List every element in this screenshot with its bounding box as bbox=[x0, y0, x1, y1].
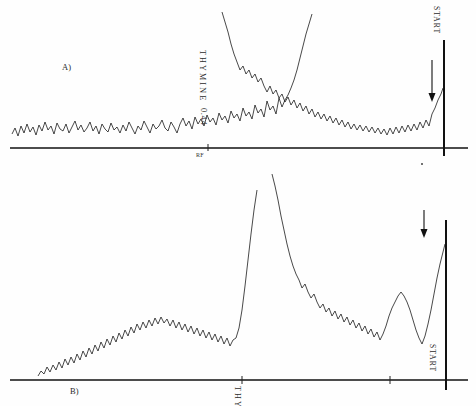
panel-a-start-label: START bbox=[432, 6, 441, 34]
panel-a-trace-right bbox=[222, 12, 443, 135]
panel-b-trace-left bbox=[38, 190, 257, 376]
panel-a-rf-value: 0.44 bbox=[199, 108, 209, 125]
panel-a-rf-tick-label: RF bbox=[196, 152, 204, 158]
panel-b-label: B) bbox=[70, 386, 79, 396]
figure-radiochromatogram: A) THYMINE 0.44 START RF B) THYMINE bbox=[0, 0, 476, 406]
panel-a-label: A) bbox=[62, 62, 71, 72]
panel-b-thymine-label: THYMINE bbox=[233, 386, 242, 406]
panel-b-trace-right bbox=[272, 174, 445, 344]
panel-b-start-arrow bbox=[421, 210, 428, 238]
panel-a-thymine-label: THYMINE bbox=[198, 50, 207, 102]
panel-b-plot bbox=[0, 168, 476, 406]
panel-a: A) THYMINE 0.44 START RF bbox=[0, 0, 476, 170]
panel-a-trace-left bbox=[12, 14, 312, 136]
panel-b: B) THYMINE 0.42 0.07 START RF RF bbox=[0, 168, 476, 406]
panel-a-start-arrow bbox=[429, 60, 436, 102]
panel-b-start-label: START bbox=[428, 344, 437, 372]
panel-a-plot bbox=[0, 0, 476, 170]
scan-artifact-speck bbox=[421, 163, 423, 165]
